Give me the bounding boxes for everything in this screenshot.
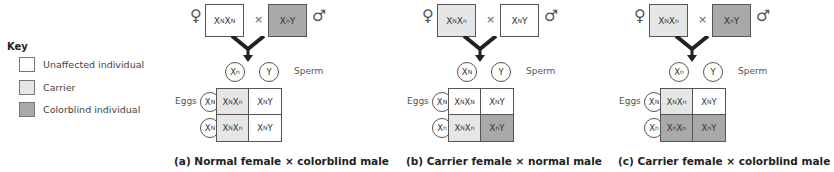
sperm-label: Sperm <box>294 66 323 76</box>
colorblind-swatch <box>19 102 35 117</box>
offspring-cell: XNY <box>249 89 281 115</box>
offspring-cell: XNY <box>693 89 725 115</box>
female-parent-box: XNXN <box>205 4 244 37</box>
cross-arrow-icon <box>220 36 280 64</box>
male-parent-box: XnY <box>268 4 307 37</box>
key-label: Carrier <box>43 82 76 93</box>
offspring-cell: XnY <box>693 115 725 141</box>
punnett-square: XNXn XNY XNXn XNY <box>216 88 282 142</box>
key-label: Colorblind individual <box>43 104 140 115</box>
female-parent-box: XNXn <box>649 4 688 37</box>
offspring-cell: XnY <box>481 115 513 141</box>
punnett-square: XNXn XNY XnXn XnY <box>660 88 726 142</box>
male-parent-box: XnY <box>712 4 751 37</box>
key-item-colorblind: Colorblind individual <box>19 101 140 117</box>
offspring-cell: XNXn <box>217 115 249 141</box>
offspring-cell: XNXn <box>661 89 693 115</box>
eggs-label: Eggs <box>175 96 197 106</box>
female-symbol-icon: ♀ <box>634 6 646 26</box>
sperm-gamete: Xn <box>225 62 245 82</box>
cross-symbol-icon: × <box>698 13 707 26</box>
cross-arrow-icon <box>664 36 724 64</box>
female-symbol-icon: ♀ <box>422 6 434 26</box>
male-symbol-icon: ♂ <box>544 6 558 26</box>
sperm-label: Sperm <box>738 66 767 76</box>
eggs-label: Eggs <box>407 96 429 106</box>
panel-c: ♀ XNXn × XnY ♂ Xn Y Sperm Eggs XN Xn XNX… <box>604 0 834 172</box>
sperm-gamete: Xn <box>669 62 689 82</box>
offspring-cell: XNY <box>249 115 281 141</box>
offspring-cell: XNXn <box>449 115 481 141</box>
sperm-gamete: Y <box>491 62 511 82</box>
female-symbol-icon: ♀ <box>190 6 202 26</box>
key-item-carrier: Carrier <box>19 79 76 95</box>
offspring-cell: XNXn <box>217 89 249 115</box>
unaffected-swatch <box>19 57 35 72</box>
female-parent-box: XNXn <box>437 4 476 37</box>
eggs-label: Eggs <box>619 96 641 106</box>
sperm-gamete: XN <box>457 62 477 82</box>
sperm-gamete: Y <box>259 62 279 82</box>
panel-caption: (a) Normal female × colorblind male <box>174 155 389 167</box>
panel-b: ♀ XNXn × XNY ♂ XN Y Sperm Eggs XN Xn XNX… <box>392 0 622 172</box>
offspring-cell: XNXN <box>449 89 481 115</box>
cross-symbol-icon: × <box>254 13 263 26</box>
key-label: Unaffected individual <box>43 59 144 70</box>
offspring-cell: XNY <box>481 89 513 115</box>
panel-caption: (c) Carrier female × colorblind male <box>618 155 830 167</box>
carrier-swatch <box>19 80 35 95</box>
male-symbol-icon: ♂ <box>312 6 326 26</box>
panel-caption: (b) Carrier female × normal male <box>406 155 602 167</box>
male-parent-box: XNY <box>500 4 539 37</box>
punnett-square: XNXN XNY XNXn XnY <box>448 88 514 142</box>
sperm-label: Sperm <box>526 66 555 76</box>
key-title: Key <box>7 41 28 52</box>
panel-a: ♀ XNXN × XnY ♂ Xn Y Sperm Eggs XN XN XNX… <box>160 0 390 172</box>
cross-arrow-icon <box>452 36 512 64</box>
offspring-cell: XnXn <box>661 115 693 141</box>
cross-symbol-icon: × <box>486 13 495 26</box>
key-item-unaffected: Unaffected individual <box>19 56 144 72</box>
male-symbol-icon: ♂ <box>756 6 770 26</box>
sperm-gamete: Y <box>703 62 723 82</box>
